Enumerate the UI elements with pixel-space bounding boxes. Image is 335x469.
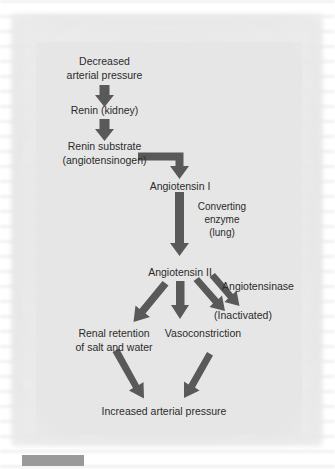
arrow-angiotensin-ii-to-vasoconstriction xyxy=(171,281,189,319)
node-converting-enzyme-label: Converting enzyme (lung) xyxy=(198,201,246,238)
arrow-renal-retention-to-increased-pressure xyxy=(113,349,145,399)
svg-text:Increased arterial pressure: Increased arterial pressure xyxy=(102,405,227,417)
svg-text:arterial pressure: arterial pressure xyxy=(67,69,143,81)
svg-text:(angiotensinogen): (angiotensinogen) xyxy=(62,154,146,166)
node-vasoconstriction: Vasoconstriction xyxy=(165,327,241,339)
node-angiotensin-ii: Angiotensin II xyxy=(148,266,212,278)
arrow-vasoconstriction-to-increased-pressure xyxy=(184,352,213,398)
node-angiotensinase: Angiotensinase xyxy=(222,280,294,292)
svg-text:Angiotensinase: Angiotensinase xyxy=(222,280,294,292)
node-renin-substrate: Renin substrate (angiotensinogen) xyxy=(62,140,146,166)
arrow-angiotensin-ii-to-renal-retention xyxy=(134,281,169,322)
svg-text:Converting: Converting xyxy=(198,201,246,212)
node-angiotensin-i: Angiotensin I xyxy=(150,180,211,192)
svg-text:Renin (kidney): Renin (kidney) xyxy=(71,104,139,116)
node-inactivated: (Inactivated) xyxy=(214,309,272,321)
svg-text:(Inactivated): (Inactivated) xyxy=(214,309,272,321)
arrow-renin-to-renin-substrate xyxy=(95,119,114,141)
node-decreased-arterial-pressure: Decreased arterial pressure xyxy=(67,55,143,81)
figure-page: Decreased arterial pressure Renin (kidne… xyxy=(0,0,335,469)
svg-text:Angiotensin II: Angiotensin II xyxy=(148,266,212,278)
svg-text:of salt and water: of salt and water xyxy=(75,341,153,353)
caption-label-bar xyxy=(22,455,84,466)
svg-text:Renin substrate: Renin substrate xyxy=(68,140,142,152)
svg-text:Angiotensin I: Angiotensin I xyxy=(150,180,211,192)
svg-text:Renal retention: Renal retention xyxy=(78,327,149,339)
node-increased-arterial-pressure: Increased arterial pressure xyxy=(102,405,227,417)
svg-text:enzyme: enzyme xyxy=(204,214,239,225)
svg-text:Decreased: Decreased xyxy=(79,55,130,67)
arrow-angiotensin-i-to-angiotensin-ii xyxy=(170,192,189,256)
node-renal-retention: Renal retention of salt and water xyxy=(75,327,153,353)
svg-text:(lung): (lung) xyxy=(209,227,235,238)
node-renin-kidney: Renin (kidney) xyxy=(71,104,139,116)
svg-text:Vasoconstriction: Vasoconstriction xyxy=(165,327,241,339)
flowchart-svg: Decreased arterial pressure Renin (kidne… xyxy=(0,0,335,469)
